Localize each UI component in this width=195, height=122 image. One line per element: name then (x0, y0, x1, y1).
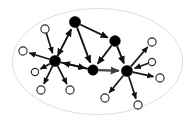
graph-leaf-node (19, 47, 27, 55)
dotted-ellipse-boundary (13, 9, 183, 115)
graph-leaf-node (156, 74, 164, 82)
graph-leaf-node (101, 94, 109, 102)
network-diagram-figure (0, 0, 195, 122)
graph-leaf-node (134, 101, 142, 109)
graph-hub-node (69, 16, 80, 27)
graph-leaf-node (37, 86, 45, 94)
graph-leaf-node (148, 58, 155, 65)
graph-leaf-node (66, 86, 74, 94)
graph-hub-node (121, 65, 132, 76)
graph-hub-node (88, 65, 98, 75)
graph-leaf-node (41, 25, 49, 33)
graph-hub-node (49, 55, 60, 66)
graph-leaf-node (148, 38, 156, 46)
graph-leaf-node (31, 68, 38, 75)
graph-canvas (0, 0, 195, 122)
graph-hub-node (110, 36, 121, 47)
graph-edge (98, 70, 118, 71)
